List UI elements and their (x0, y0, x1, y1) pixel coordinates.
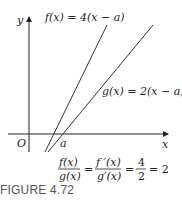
g-label: g(x) = 2(x − a) (102, 85, 182, 98)
line-f (45, 25, 107, 152)
figure-caption: FIGURE 4.72 (0, 183, 74, 197)
frac2-den: g′(x) (97, 170, 121, 183)
eq1: = (84, 163, 93, 176)
point-a-label: a (60, 137, 67, 150)
frac1-den: g(x) (59, 170, 81, 183)
eq2: = (125, 163, 134, 176)
x-axis-label: x (162, 138, 169, 151)
frac1-num: f(x) (58, 156, 78, 169)
y-axis-label: y (16, 14, 24, 27)
graph: y x O a f(x) = 4(x − a) g(x) = 2(x − a) … (0, 0, 182, 203)
origin-label: O (17, 137, 26, 150)
frac2-num: f ′(x) (95, 156, 121, 169)
f-label: f(x) = 4(x − a) (44, 11, 125, 24)
equation: f(x) g(x) = f ′(x) g′(x) = 4 2 = 2 (58, 156, 169, 183)
figure: y x O a f(x) = 4(x − a) g(x) = 2(x − a) … (0, 0, 182, 203)
result: = 2 (149, 163, 169, 176)
frac3-den: 2 (138, 170, 145, 183)
frac3-num: 4 (138, 156, 145, 169)
